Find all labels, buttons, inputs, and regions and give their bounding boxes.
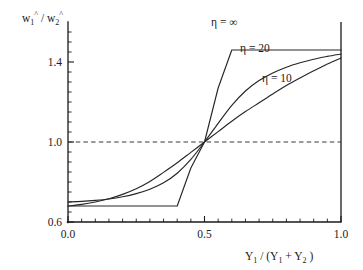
curve-eta-20 (68, 54, 341, 202)
x-ticklabel-0.0: 0.0 (61, 228, 76, 240)
y-axis-label-slash: / (38, 12, 47, 24)
x-axis-label-close: ) (307, 250, 314, 263)
y-axis-label-sub2: 2 (55, 18, 59, 27)
x-ticklabel-1.0: 1.0 (334, 228, 349, 240)
annotation-eta-10: η = 10 (262, 72, 292, 85)
x-ticklabel-0.5: 0.5 (197, 228, 212, 240)
y-axis-label-sup2: ^ (59, 10, 63, 19)
x-axis-label: Y1 / (Y1 + Y2 ) (245, 250, 313, 265)
x-axis-label-slash: / ( (257, 250, 270, 263)
y-ticklabel-1.4: 1.4 (48, 56, 63, 68)
y-ticklabel-0.6: 0.6 (48, 216, 63, 228)
curve-eta-10 (68, 58, 341, 206)
curve-eta-infinity (68, 50, 341, 206)
x-axis-label-plus: + (282, 250, 294, 262)
figure-container: 1.4 1.0 0.6 0.0 0.5 1.0 w1^ / w2^ Y1 / (… (0, 0, 363, 270)
annotation-eta-20: η = 20 (240, 42, 270, 55)
annotation-eta-infinity: η = ∞ (211, 16, 237, 29)
y-axis-label: w1^ / w2^ (22, 10, 63, 27)
y-axis-label-sub1: 1 (30, 18, 34, 27)
y-ticklabel-1.0: 1.0 (48, 136, 63, 148)
chart-svg: 1.4 1.0 0.6 0.0 0.5 1.0 w1^ / w2^ Y1 / (… (0, 0, 363, 270)
